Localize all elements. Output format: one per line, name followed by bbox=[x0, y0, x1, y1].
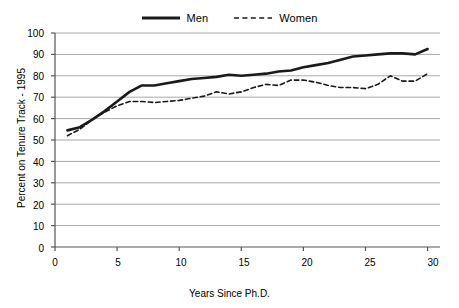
tenure-track-line-chart: Men Women Percent on Tenure Track - 1995… bbox=[0, 0, 459, 308]
gridlines bbox=[55, 33, 440, 226]
plot-area bbox=[0, 0, 459, 308]
axis-ticks bbox=[51, 33, 428, 251]
series-line-women bbox=[67, 74, 427, 136]
